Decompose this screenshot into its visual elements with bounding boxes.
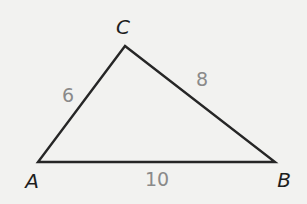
side-length-label-ac: 6 xyxy=(62,86,74,105)
vertex-label-a: A xyxy=(25,171,39,191)
side-length-label-cb: 8 xyxy=(196,70,208,89)
side-length-label-ab: 10 xyxy=(145,170,169,189)
vertex-label-b: B xyxy=(277,170,291,190)
triangle-figure: C A B 6 8 10 xyxy=(0,0,307,204)
vertex-label-c: C xyxy=(116,17,130,37)
